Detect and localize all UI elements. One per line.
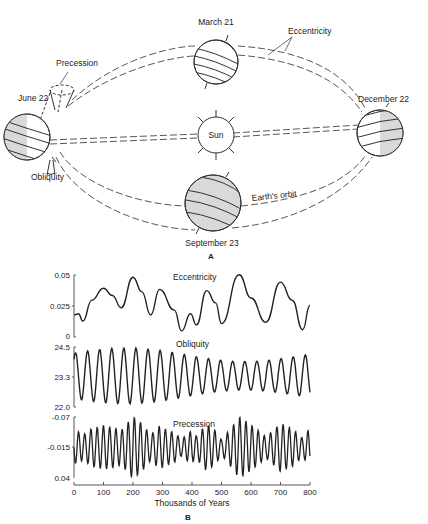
earth-march [194, 35, 238, 89]
obl-ytick-top: 24.5 [54, 343, 70, 352]
december-label: December 22 [358, 94, 409, 104]
ecc-ytick-mid: 0.025 [50, 302, 71, 311]
pre-ytick-mid: -0.015 [47, 443, 70, 452]
precession-label: Precession [56, 58, 98, 68]
obliquity-curve [74, 348, 310, 404]
x-tick-label: 800 [303, 488, 317, 497]
pre-ytick-bot: 0.04 [54, 474, 70, 483]
june-label: June 22 [18, 93, 49, 103]
precession-cone [50, 72, 74, 112]
precession-chart: -0.07 -0.015 0.04 Precession [47, 413, 310, 483]
pre-ytick-top: -0.07 [52, 413, 71, 422]
obliquity-label: Obliquity [31, 172, 65, 182]
ecc-ytick-top: 0.05 [54, 271, 70, 280]
obl-ytick-mid: 23.3 [54, 373, 70, 382]
panel-a-label: A [208, 252, 214, 261]
eccentricity-chart: 0.05 0.025 0 Eccentricity [50, 271, 310, 341]
obl-title: Obliquity [176, 339, 210, 349]
obl-ytick-bot: 22.0 [54, 403, 70, 412]
obliquity-chart: 24.5 23.3 22.0 Obliquity [54, 339, 310, 412]
earth-september [185, 172, 243, 234]
eccentricity-curve [74, 275, 310, 331]
milankovitch-figure: Sun March 21 Eccentricity Precession Jun… [0, 0, 428, 524]
march-label: March 21 [198, 17, 234, 27]
earths-orbit-label: Earth's orbit [251, 188, 298, 203]
x-tick-label: 100 [97, 488, 111, 497]
x-tick-label: 600 [244, 488, 258, 497]
september-label: September 23 [185, 238, 239, 248]
x-tick-label: 400 [185, 488, 199, 497]
x-axis-label: Thousands of Years [154, 498, 229, 508]
eccentricity-pointer [268, 37, 292, 55]
time-series-charts: 0.05 0.025 0 Eccentricity 24.5 23.3 22.0… [47, 271, 317, 522]
x-tick-label: 200 [126, 488, 140, 497]
earth-december [355, 103, 410, 161]
x-tick-label: 700 [274, 488, 288, 497]
ecc-ytick-bot: 0 [66, 332, 71, 341]
x-tick-label: 500 [215, 488, 229, 497]
orbit-diagram: Sun March 21 Eccentricity Precession Jun… [0, 17, 410, 261]
eccentricity-label: Eccentricity [288, 26, 332, 36]
panel-b-label: B [185, 513, 191, 522]
sun-label: Sun [208, 130, 223, 140]
sun: Sun [198, 110, 234, 160]
x-tick-label: 0 [72, 488, 77, 497]
ecc-title: Eccentricity [173, 272, 217, 282]
earth-june [0, 93, 56, 165]
x-axis: 0100200300400500600700800 Thousands of Y… [72, 482, 317, 522]
x-tick-label: 300 [156, 488, 170, 497]
